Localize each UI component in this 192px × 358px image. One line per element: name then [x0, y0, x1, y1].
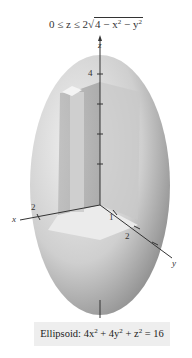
ellipsoid-figure	[0, 0, 192, 358]
y-axis-label: y	[172, 258, 176, 268]
caption-mid1: + 4y	[98, 328, 120, 339]
y-tick-2-label: 2	[125, 231, 130, 241]
column	[70, 92, 84, 212]
z-tick-label: 4	[88, 68, 93, 78]
caption-prefix: Ellipsoid: 4x	[40, 328, 94, 339]
x-tick-label: 2	[31, 202, 36, 212]
caption-mid2: + z	[123, 328, 139, 339]
z-axis-label: z	[98, 40, 102, 50]
x-axis-label: x	[12, 214, 16, 224]
caption-suffix: = 16	[142, 328, 164, 339]
y-tick-1-label: 1	[109, 212, 114, 222]
ellipsoid-caption: Ellipsoid: 4x2 + 4y2 + z2 = 16	[34, 322, 170, 346]
cutaway-wall-right	[100, 82, 140, 220]
